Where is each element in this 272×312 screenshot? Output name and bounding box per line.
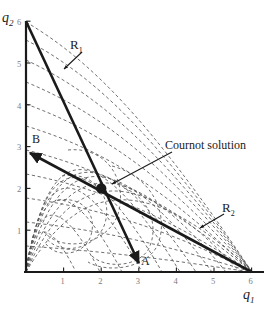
x-tick-1: 1 — [61, 276, 65, 286]
y-tick-2: 2 — [17, 184, 21, 194]
cournot-leader-line — [112, 152, 172, 184]
y-axis-label: q2 — [2, 11, 14, 28]
x-tick-6: 6 — [249, 276, 253, 286]
cournot-solution-label: Cournot solution — [165, 139, 246, 151]
x-tick-2: 2 — [98, 276, 102, 286]
x-axis-label: q1 — [243, 288, 255, 305]
reaction-function-r1-line — [26, 21, 139, 263]
r2-label: R2 — [222, 201, 235, 218]
x-tick-4: 4 — [173, 276, 177, 286]
y-tick-6: 6 — [17, 17, 21, 27]
isoprofit-curves-firm2 — [26, 170, 252, 272]
plot-canvas — [0, 0, 272, 312]
point-b-label: B — [32, 133, 40, 145]
r2-leader-line — [200, 214, 224, 228]
cournot-figure: q2 q1 1 2 3 4 5 6 6 5 4 3 2 1 R1 R2 B A … — [0, 0, 272, 312]
x-tick-5: 5 — [211, 276, 215, 286]
cournot-solution-point — [96, 183, 106, 193]
y-tick-3: 3 — [17, 142, 21, 152]
y-tick-1: 1 — [17, 226, 21, 236]
r1-label: R1 — [70, 38, 83, 55]
y-tick-4: 4 — [17, 101, 21, 111]
x-tick-3: 3 — [136, 276, 140, 286]
y-tick-5: 5 — [17, 59, 21, 69]
point-a-label: A — [141, 255, 150, 267]
